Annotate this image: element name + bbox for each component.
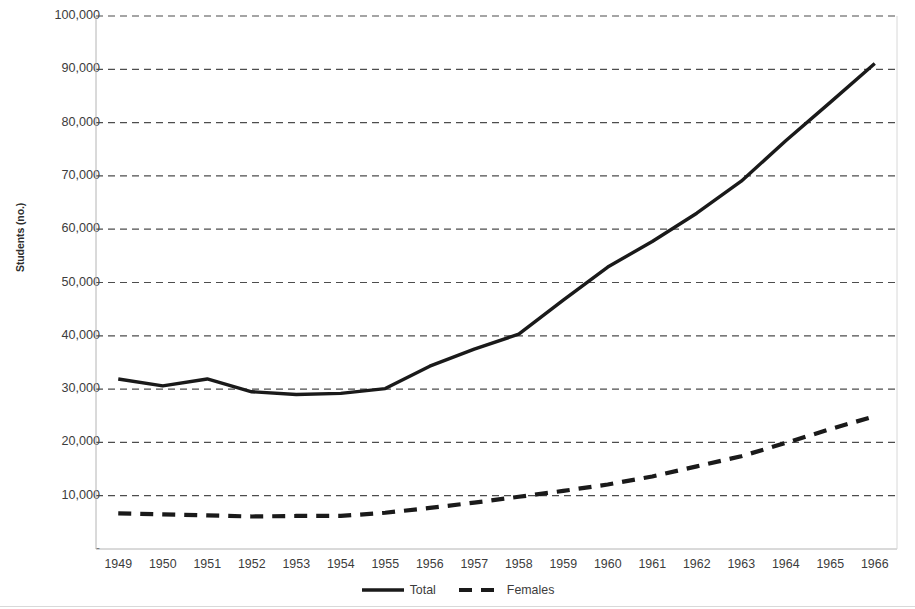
chart-legend: TotalFemales [0,583,915,597]
legend-entry-total[interactable]: Total [361,583,436,597]
line-chart: Students (no.) 100,00090,00080,00070,000… [0,0,915,609]
series-line-females [118,416,875,516]
legend-entry-females[interactable]: Females [458,583,555,597]
plot-area [0,0,915,609]
bottom-divider [0,606,915,607]
data-series-layer [118,63,875,516]
legend-swatch-solid-line-icon [361,583,405,597]
legend-label: Females [507,583,555,597]
x-tick-label: 1966 [847,558,903,570]
legend-label: Total [410,583,436,597]
gridlines [96,16,897,496]
legend-swatch-dashed-line-icon [458,583,502,597]
